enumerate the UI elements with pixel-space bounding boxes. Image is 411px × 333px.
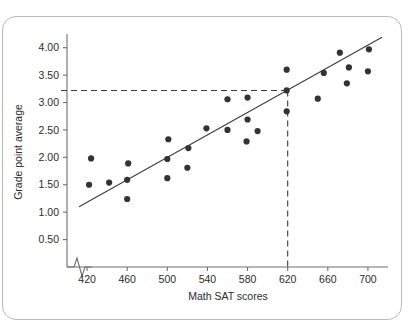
data-point [184, 165, 190, 171]
data-point [224, 127, 230, 133]
x-tick-label: 500 [159, 273, 177, 285]
data-point [106, 179, 112, 185]
x-axis-title: Math SAT scores [188, 290, 268, 302]
data-point [165, 136, 171, 142]
y-tick-label: 3.00 [39, 96, 60, 108]
y-tick-label: 4.00 [39, 41, 60, 53]
data-point [284, 87, 290, 93]
x-tick-label: 580 [239, 273, 257, 285]
x-tick-label: 700 [359, 273, 377, 285]
y-axis-title: Grade point average [12, 104, 24, 200]
data-point [284, 108, 290, 114]
data-point [337, 50, 343, 56]
data-point [124, 196, 130, 202]
y-tick-label: 2.50 [39, 124, 60, 136]
y-axis-ticks [63, 48, 67, 240]
x-tick-label: 540 [199, 273, 217, 285]
data-point [284, 67, 290, 73]
data-point [203, 125, 209, 131]
data-point [243, 138, 249, 144]
y-tick-label: 1.50 [39, 178, 60, 190]
data-point [125, 160, 131, 166]
y-axis-tick-labels: 0.501.001.502.002.503.003.504.00 [39, 41, 60, 245]
data-point [244, 116, 250, 122]
data-point [321, 70, 327, 76]
scatter-plot-figure: 0.501.001.502.002.503.003.504.00 4204605… [0, 0, 411, 333]
data-point [365, 68, 371, 74]
data-point [86, 182, 92, 188]
data-point [315, 96, 321, 102]
data-point [88, 155, 94, 161]
y-tick-label: 0.50 [39, 233, 60, 245]
y-tick-label: 1.00 [39, 206, 60, 218]
data-points-group [86, 46, 372, 202]
data-point [346, 64, 352, 70]
chart-canvas: 0.501.001.502.002.503.003.504.00 4204605… [0, 0, 411, 333]
y-tick-label: 3.50 [39, 69, 60, 81]
guide-lines-group [61, 90, 288, 267]
x-tick-label: 620 [279, 273, 297, 285]
x-axis-tick-labels: 420460500540580620660700 [78, 273, 377, 285]
data-point [344, 80, 350, 86]
x-tick-label: 420 [78, 273, 96, 285]
y-tick-label: 2.00 [39, 151, 60, 163]
data-point [366, 46, 372, 52]
x-tick-label: 660 [319, 273, 337, 285]
data-point [124, 177, 130, 183]
data-point [244, 94, 250, 100]
data-point [185, 145, 191, 151]
data-point [224, 96, 230, 102]
x-axis-ticks [87, 267, 368, 271]
data-point [254, 128, 260, 134]
data-point [164, 156, 170, 162]
data-point [164, 175, 170, 181]
x-tick-label: 460 [118, 273, 136, 285]
axes-group [67, 34, 388, 276]
